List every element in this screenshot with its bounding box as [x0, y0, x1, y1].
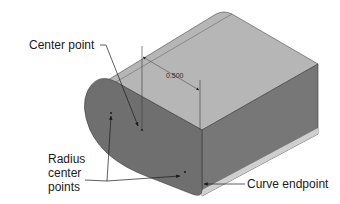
radius-label-line-3: points	[48, 180, 80, 194]
radius-center-dot-2	[184, 171, 186, 173]
radius-label-line-1: Radius	[48, 152, 85, 166]
curve-endpoint-label: Curve endpoint	[247, 177, 328, 191]
center-point-label: Center point	[29, 38, 94, 52]
radius-center-dot-1	[110, 112, 112, 114]
dimension-value: 0.500	[166, 72, 184, 80]
center-point-dot	[141, 129, 143, 131]
diagram-canvas: 0.500 Center point Radius center points …	[0, 0, 340, 204]
radius-label-line-2: center	[48, 166, 81, 180]
